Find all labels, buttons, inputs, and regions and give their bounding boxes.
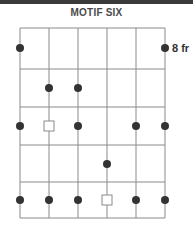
finger-dot-marker	[16, 196, 24, 204]
finger-dot-marker	[45, 196, 53, 204]
finger-dot-marker	[16, 122, 24, 130]
finger-dot-marker	[74, 122, 82, 130]
finger-dot-marker	[161, 122, 169, 130]
finger-dot-marker	[161, 196, 169, 204]
finger-dot-marker	[103, 160, 111, 168]
root-square-marker	[44, 121, 54, 131]
fret-position-label: 8 fr	[172, 42, 189, 54]
finger-dot-marker	[132, 122, 140, 130]
finger-dot-marker	[132, 196, 140, 204]
finger-dot-marker	[161, 44, 169, 52]
root-square-marker	[102, 195, 112, 205]
fretboard-grid	[20, 28, 165, 218]
finger-markers	[16, 44, 169, 205]
finger-dot-marker	[74, 84, 82, 92]
fretboard-diagram	[0, 0, 193, 236]
finger-dot-marker	[45, 84, 53, 92]
finger-dot-marker	[16, 44, 24, 52]
finger-dot-marker	[74, 196, 82, 204]
